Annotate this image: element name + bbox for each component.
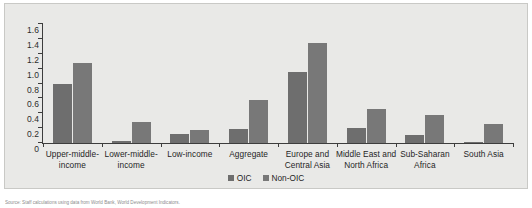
bar-oic <box>464 142 483 143</box>
y-axis-tick-mark <box>38 97 42 98</box>
x-axis-tick-mark <box>102 143 103 147</box>
x-axis-tick-mark <box>337 143 338 147</box>
y-axis-tick: 1.2 <box>5 49 43 59</box>
bar-non-oic <box>190 130 209 143</box>
legend-item: Non-OIC <box>263 174 305 182</box>
y-axis-tick: 1.0 <box>5 64 43 74</box>
y-axis-tick: 0.2 <box>5 123 43 133</box>
bar-group <box>161 24 220 143</box>
figure: 1.61.41.21.00.80.60.40.20 Upper-middle-i… <box>0 0 532 208</box>
y-axis-tick-mark <box>38 38 42 39</box>
x-axis-tick-mark <box>513 143 514 147</box>
y-axis-tick: 0 <box>5 138 43 148</box>
y-axis-tick-mark <box>38 83 42 84</box>
y-axis-tick-mark <box>38 68 42 69</box>
y-axis-tick: 0.6 <box>5 93 43 103</box>
bar-non-oic <box>308 43 327 143</box>
bar-group <box>102 24 161 143</box>
bar-oic <box>347 128 366 143</box>
y-axis-tick-mark <box>38 112 42 113</box>
bar-oic <box>229 129 248 143</box>
chart-legend: OICNon-OIC <box>5 174 527 182</box>
x-axis-category-label: South Asia <box>448 149 519 160</box>
x-axis-category-label-line: income <box>96 160 167 171</box>
bar-group <box>396 24 455 143</box>
y-axis-tick: 0.4 <box>5 108 43 118</box>
x-axis-tick-mark <box>161 143 162 147</box>
bar-oic <box>405 135 424 143</box>
bar-non-oic <box>484 124 503 143</box>
y-axis-tick-mark <box>38 23 42 24</box>
bar-group <box>219 24 278 143</box>
y-axis-tick-mark <box>38 142 42 143</box>
bar-group <box>337 24 396 143</box>
x-axis-tick-mark <box>219 143 220 147</box>
bar-oic <box>288 72 307 143</box>
legend-swatch-icon <box>228 175 234 181</box>
bar-non-oic <box>425 115 444 143</box>
legend-item: OIC <box>228 174 252 182</box>
x-axis-tick-mark <box>278 143 279 147</box>
y-axis-tick: 0.8 <box>5 79 43 89</box>
bar-non-oic <box>132 122 151 143</box>
legend-label: Non-OIC <box>272 174 305 182</box>
legend-label: OIC <box>237 174 252 182</box>
bar-non-oic <box>367 109 386 143</box>
y-axis-tick-mark <box>38 53 42 54</box>
bar-group <box>454 24 513 143</box>
x-axis-tick-mark <box>454 143 455 147</box>
plot-area <box>43 24 513 143</box>
y-axis-tick: 1.6 <box>5 19 43 29</box>
chart-panel: 1.61.41.21.00.80.60.40.20 Upper-middle-i… <box>4 3 528 189</box>
x-axis-tick-mark <box>43 143 44 147</box>
x-axis-category-label-line: South Asia <box>448 149 519 160</box>
bar-group <box>43 24 102 143</box>
bar-oic <box>53 84 72 143</box>
bar-oic <box>112 141 131 143</box>
bar-group <box>278 24 337 143</box>
bar-non-oic <box>73 63 92 143</box>
y-axis-tick-mark <box>38 127 42 128</box>
bar-non-oic <box>249 100 268 143</box>
bar-oic <box>170 134 189 143</box>
legend-swatch-icon <box>263 175 269 181</box>
x-axis-tick-mark <box>396 143 397 147</box>
x-axis-category-label-line: Africa <box>390 160 461 171</box>
y-axis-tick: 1.4 <box>5 34 43 44</box>
figure-source-caption: Source: Staff calculations using data fr… <box>5 200 525 206</box>
